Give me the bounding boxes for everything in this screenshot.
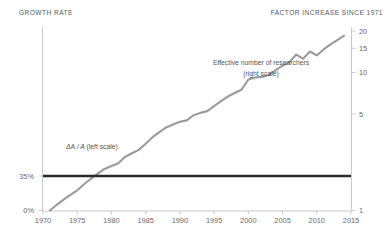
x-tick-marks xyxy=(43,211,351,215)
axis-lines xyxy=(43,27,352,211)
left-y-tick-label-0: 0% xyxy=(4,206,34,215)
plot-area xyxy=(0,0,392,246)
researchers-annotation: Effective number of researchers (right s… xyxy=(196,58,326,79)
right-y-tick-label-1: 1 xyxy=(359,206,383,215)
x-tick-label-2015: 2015 xyxy=(331,216,371,225)
right-y-tick-label-20: 20 xyxy=(359,27,383,36)
chart-container: GROWTH RATE FACTOR INCREASE SINCE 1971 0… xyxy=(0,0,392,246)
right-y-tick-label-5: 5 xyxy=(359,110,383,119)
right-y-tick-label-15: 15 xyxy=(359,44,383,53)
researchers-annotation-line1: Effective number of researchers xyxy=(213,59,309,66)
growth-formula-label: ΔA / A xyxy=(66,143,85,150)
left-y-tick-label-35: 35% xyxy=(4,172,34,181)
growth-rate-annotation: ΔA / A (left scale) xyxy=(66,143,118,150)
right-y-tick-label-10: 10 xyxy=(359,68,383,77)
researchers-annotation-line2: (right scale) xyxy=(243,70,279,77)
growth-scale-note: (left scale) xyxy=(86,143,117,150)
